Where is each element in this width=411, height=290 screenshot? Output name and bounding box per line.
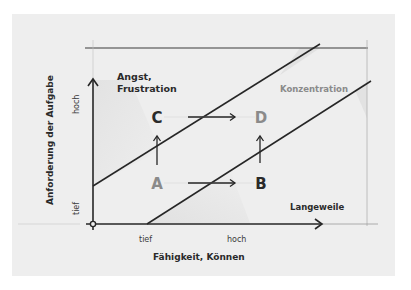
origin-marker bbox=[90, 221, 95, 226]
region-middle-label: Konzentration bbox=[280, 84, 348, 94]
y-axis-title: Anforderung der Aufgabe bbox=[45, 75, 55, 205]
point-c-label: C bbox=[151, 109, 162, 127]
x-tick-high: hoch bbox=[227, 235, 246, 244]
point-b-label: B bbox=[255, 175, 266, 193]
y-tick-low: tief bbox=[72, 202, 81, 215]
x-axis-title: Fähigkeit, Können bbox=[153, 252, 245, 262]
flow-diagram: C D A B Angst, Frustration Konzentration… bbox=[0, 0, 411, 290]
point-a-label: A bbox=[151, 175, 163, 193]
x-tick-low: tief bbox=[139, 235, 152, 244]
paper-background bbox=[12, 14, 395, 276]
region-upper-label-line1: Angst, bbox=[117, 71, 152, 82]
point-d-label: D bbox=[255, 109, 267, 127]
region-upper-label-line2: Frustration bbox=[117, 83, 177, 94]
region-lower-label: Langeweile bbox=[290, 202, 344, 212]
y-tick-high: hoch bbox=[72, 95, 81, 114]
